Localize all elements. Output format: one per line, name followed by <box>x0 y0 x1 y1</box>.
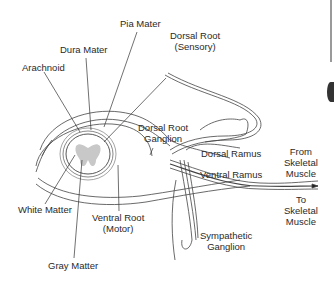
leader-dura-mater <box>86 58 91 130</box>
label-dorsal-ramus: Dorsal Ramus <box>201 148 261 159</box>
label-white-matter: White Matter <box>18 204 72 215</box>
label-ventral-ramus: Ventral Ramus <box>200 169 262 180</box>
leader-white-matter <box>45 155 75 204</box>
label-from-skeletal-muscle: From Skeletal Muscle <box>284 146 318 179</box>
label-sympathetic-ganglion: Sympathetic Ganglion <box>200 230 252 252</box>
label-dorsal-root: Dorsal Root (Sensory) <box>170 30 220 52</box>
page-edge-mark <box>327 82 334 102</box>
label-arachnoid: Arachnoid <box>22 62 65 73</box>
label-to-skeletal-muscle: To Skeletal Muscle <box>284 194 318 227</box>
leader-arachnoid <box>44 72 80 132</box>
leader-gray-matter <box>74 160 82 258</box>
label-pia-mater: Pia Mater <box>120 18 161 29</box>
label-dura-mater: Dura Mater <box>60 44 108 55</box>
label-dorsal-root-ganglion: Dorsal Root Ganglion <box>138 122 188 144</box>
label-gray-matter: Gray Matter <box>48 260 98 271</box>
label-ventral-root: Ventral Root (Motor) <box>92 212 144 234</box>
page-edge-line <box>330 0 332 62</box>
